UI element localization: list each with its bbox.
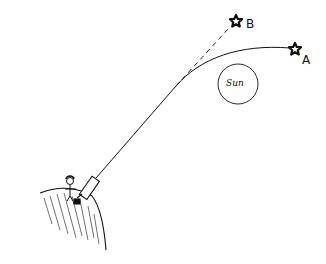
sun-label: Sun — [226, 78, 244, 88]
star-b-icon — [230, 15, 242, 27]
star-a-icon — [289, 43, 301, 55]
observer-figure — [65, 176, 76, 201]
apparent-line-to-b — [176, 28, 229, 86]
hill — [40, 188, 106, 250]
star-b-label: B — [246, 17, 254, 31]
star-a-label: A — [302, 53, 310, 67]
light-path — [96, 47, 290, 178]
lensing-diagram — [0, 0, 326, 264]
